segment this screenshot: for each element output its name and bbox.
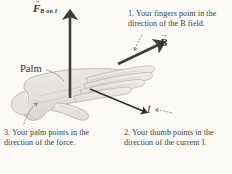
right-hand-rule-diagram: Palm → F B on I → B I 1. Your fingers po… [0, 0, 232, 174]
magnetic-field-vector-arrow [118, 45, 158, 64]
caption-palm: 3. Your palm points in the direction of … [4, 128, 104, 148]
palm-label: Palm [20, 63, 42, 74]
force-vector-label: → F B on I [33, 2, 57, 14]
force-subscript: B on I [40, 8, 57, 14]
magnetic-field-vector-label: → B [160, 36, 167, 48]
wrist-shape [11, 91, 29, 115]
hand-illustration [11, 66, 154, 121]
field-vector-accent-icon: → [160, 31, 167, 39]
fingers-caption-leader-line [135, 35, 142, 49]
thumb-caption-leader-line [157, 110, 172, 113]
force-vector-accent-icon: → [33, 0, 40, 5]
current-vector-label: I [147, 104, 150, 115]
thumb-shape [52, 103, 89, 120]
caption-thumb: 2. Your thumb points in the direction of… [124, 128, 228, 148]
caption-fingers: 1. Your fingers point in the direction o… [128, 9, 230, 29]
